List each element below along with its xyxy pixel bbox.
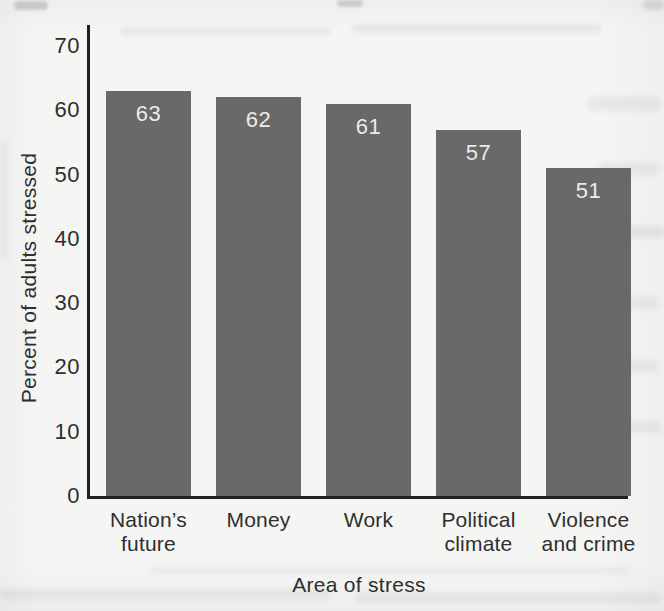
x-tick-label: Politicalclimate [436,508,521,556]
y-tick-label: 30 [0,290,80,316]
x-axis-line [87,496,628,499]
stress-bar-chart-figure: Percent of adults stressed Area of stres… [0,0,664,611]
bar: 62 [216,97,301,496]
x-tick-label: Nation’sfuture [106,508,191,556]
scan-bleedthrough-mark [352,24,602,34]
y-tick-label: 0 [0,483,80,509]
scan-bleedthrough-mark [643,0,664,10]
bar-value-label: 62 [216,107,301,133]
y-tick-label: 40 [0,226,80,252]
plot-area: 6362615751 [90,46,628,496]
scan-bleedthrough-mark [120,27,330,36]
x-tick-label: Money [216,508,301,556]
y-tick-label: 60 [0,97,80,123]
bar: 63 [106,91,191,496]
y-tick-label: 10 [0,419,80,445]
scan-bleedthrough-mark [14,1,48,10]
bar-value-label: 63 [106,101,191,127]
x-axis-labels: Nation’sfutureMoneyWorkPoliticalclimateV… [90,508,628,556]
scan-bleedthrough-mark [337,0,363,7]
bar-value-label: 51 [546,178,631,204]
x-axis-title: Area of stress [90,573,628,597]
y-tick-label: 70 [0,33,80,59]
bar-value-label: 61 [326,114,411,140]
x-tick-label: Work [326,508,411,556]
y-tick-label: 20 [0,354,80,380]
bar: 57 [436,130,521,496]
x-tick-label: Violenceand crime [546,508,631,556]
bar: 61 [326,104,411,496]
bar-value-label: 57 [436,140,521,166]
y-tick-label: 50 [0,162,80,188]
bar: 51 [546,168,631,496]
